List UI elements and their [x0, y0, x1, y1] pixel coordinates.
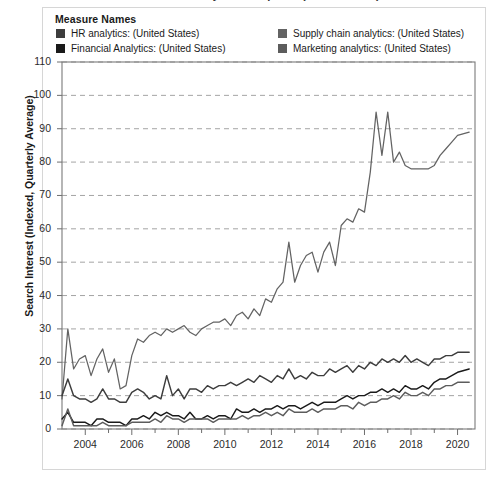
x-tick-label-2004: 2004 — [65, 438, 105, 450]
x-tick-label-2020: 2020 — [438, 438, 478, 450]
y-tick-label-110: 110 — [21, 55, 51, 67]
plot-frame — [62, 62, 475, 429]
y-tick-label-100: 100 — [21, 88, 51, 100]
line-chart-svg — [0, 0, 488, 479]
y-tick-label-0: 0 — [21, 422, 51, 434]
series-line-0 — [62, 112, 469, 399]
series-line-2 — [62, 369, 469, 426]
plot-area: Search Interest (Indexed, Quarterly Aver… — [0, 0, 488, 479]
series-line-3 — [62, 382, 469, 425]
y-tick-label-30: 30 — [21, 322, 51, 334]
x-tick-label-2006: 2006 — [112, 438, 152, 450]
x-tick-label-2010: 2010 — [205, 438, 245, 450]
y-tick-label-10: 10 — [21, 389, 51, 401]
x-tick-label-2016: 2016 — [344, 438, 384, 450]
x-tick-label-2014: 2014 — [298, 438, 338, 450]
chart-screenshot: Search Interest in Business Analytics Di… — [0, 0, 488, 479]
y-tick-label-20: 20 — [21, 355, 51, 367]
y-tick-label-40: 40 — [21, 289, 51, 301]
x-tick-label-2008: 2008 — [158, 438, 198, 450]
x-tick-label-2012: 2012 — [251, 438, 291, 450]
y-tick-label-70: 70 — [21, 188, 51, 200]
y-tick-label-90: 90 — [21, 122, 51, 134]
y-tick-label-60: 60 — [21, 222, 51, 234]
y-tick-label-50: 50 — [21, 255, 51, 267]
y-tick-label-80: 80 — [21, 155, 51, 167]
x-tick-label-2018: 2018 — [391, 438, 431, 450]
